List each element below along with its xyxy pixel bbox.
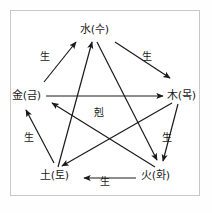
wuxing-diagram: 水(수) 木(목) 火(화) 土(토) 金(금) 剋 生 生 生 生 生 xyxy=(0,0,212,213)
edge-label-fire-earth: 生 xyxy=(100,177,110,187)
edge-label-water-wood: 生 xyxy=(142,52,152,62)
node-label-water: 水(수) xyxy=(80,24,109,35)
node-label-metal: 金(금) xyxy=(12,90,41,101)
arrow-metal-to-water xyxy=(44,42,76,82)
edge-label-wood-fire: 生 xyxy=(162,133,172,143)
overcoming-cycle-arrows xyxy=(46,42,172,167)
edge-label-metal-water: 生 xyxy=(40,52,50,62)
edge-label-earth-metal: 生 xyxy=(24,133,34,143)
node-label-earth: 土(토) xyxy=(40,170,69,181)
arrow-earth-to-water xyxy=(58,42,92,167)
center-label-overcoming: 剋 xyxy=(94,108,104,118)
node-label-wood: 木(목) xyxy=(167,90,196,101)
node-label-fire: 火(화) xyxy=(141,170,170,181)
